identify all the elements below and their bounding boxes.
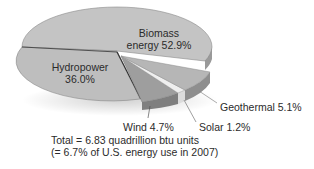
- label-biomass-line1: Biomass: [126, 27, 192, 39]
- label-hydropower-line1: Hydropower: [47, 61, 113, 73]
- label-biomass-line2: energy 52.9%: [126, 39, 192, 51]
- label-solar: Solar 1.2%: [199, 121, 250, 133]
- total-annotation: Total = 6.83 quadrillion btu units (= 6.…: [51, 134, 218, 158]
- label-hydropower-line2: 36.0%: [47, 73, 113, 85]
- total-line1: Total = 6.83 quadrillion btu units: [51, 134, 218, 146]
- label-wind: Wind 4.7%: [123, 121, 174, 133]
- total-line2: (= 6.7% of U.S. energy use in 2007): [51, 146, 218, 158]
- label-biomass: Biomass energy 52.9%: [126, 27, 192, 51]
- label-geothermal: Geothermal 5.1%: [220, 101, 302, 113]
- label-hydropower: Hydropower 36.0%: [47, 61, 113, 85]
